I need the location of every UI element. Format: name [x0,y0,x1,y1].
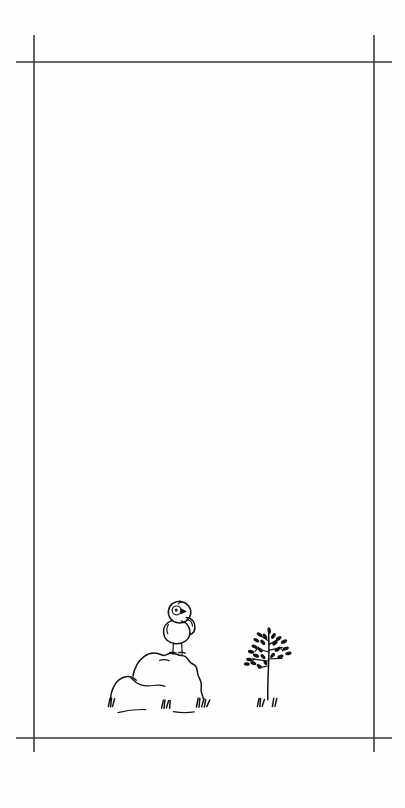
leaf [269,652,276,659]
bird-head [168,601,190,623]
bird-breast-line [167,624,169,633]
leaf [285,651,292,656]
leaf [267,627,271,634]
leaf [252,653,259,659]
grass-tuft-right [196,698,209,707]
crop-marks-group [16,35,392,752]
bird-beak [180,608,187,614]
ground-line-left [118,710,146,713]
sapling [244,627,292,700]
leaf [259,639,266,646]
bird-eye-pupil [175,609,178,612]
leaf [270,632,276,639]
bird-head-tuft [178,602,181,604]
rock-facet-tick [160,660,169,661]
bird-right-foot [178,652,185,654]
ground-line-right [173,712,194,713]
artboard [0,0,405,808]
sapling-leaves [244,627,292,669]
sapling-grass-tuft-right [272,698,276,706]
leaf [280,638,288,644]
leaf [253,637,260,643]
bird-wing-inner [188,620,192,626]
bird [164,601,195,654]
artwork-group [108,601,292,712]
leaf [244,662,250,666]
ground-grass [108,698,209,712]
crop-mark-top-left [16,35,392,752]
rock [110,653,203,700]
leaf [247,649,254,654]
leaf [260,653,267,660]
sketch-page [0,0,405,808]
bird-right-leg [182,643,183,652]
bird-left-leg [173,643,174,652]
grass-tuft-left [108,698,114,707]
sapling-grass-tuft-left [257,699,264,707]
grass-tuft-center [162,700,171,708]
